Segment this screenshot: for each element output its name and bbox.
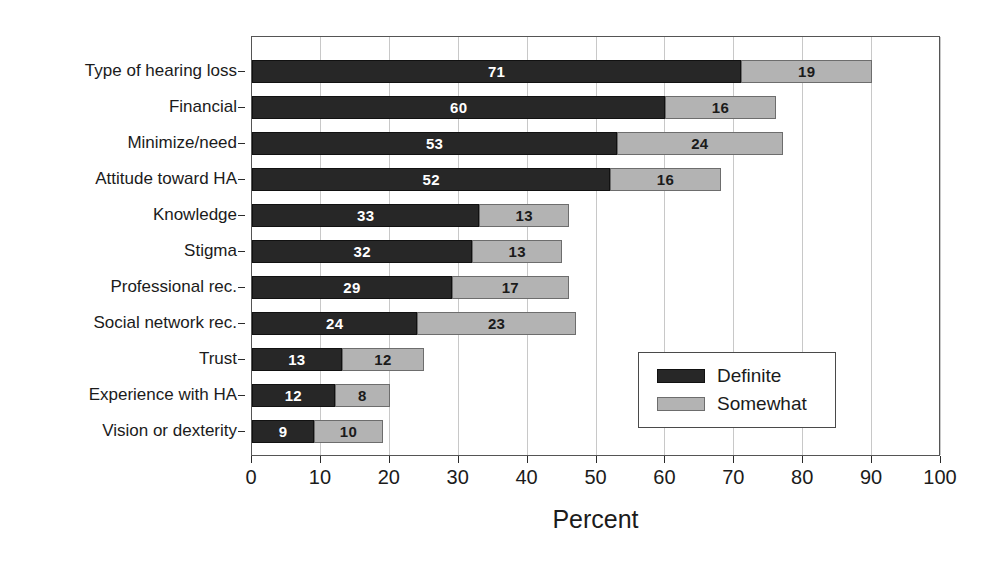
x-tick-label: 70 (722, 466, 744, 489)
bar-segment-somewhat: 19 (741, 60, 872, 83)
x-tick-mark-80 (802, 456, 803, 463)
bar-row: 3313 (252, 204, 569, 227)
bar-value-label: 24 (326, 315, 343, 332)
bar-segment-somewhat: 13 (479, 204, 569, 227)
bar-value-label: 12 (374, 351, 391, 368)
x-tick-label: 60 (653, 466, 675, 489)
category-tick (238, 323, 245, 324)
category-label: Stigma (184, 239, 237, 262)
x-tick-label: 10 (309, 466, 331, 489)
bar-row: 5216 (252, 168, 721, 191)
x-tick-mark-30 (458, 456, 459, 463)
gridline-90 (871, 37, 872, 455)
bar-value-label: 9 (279, 423, 288, 440)
x-tick-mark-70 (733, 456, 734, 463)
legend-label: Somewhat (717, 393, 807, 415)
category-tick (238, 359, 245, 360)
legend-swatch-somewhat (657, 397, 705, 411)
x-tick-mark-20 (389, 456, 390, 463)
x-tick-label: 20 (378, 466, 400, 489)
x-tick-mark-40 (527, 456, 528, 463)
bar-value-label: 32 (354, 243, 371, 260)
x-tick-label: 50 (584, 466, 606, 489)
bar-value-label: 23 (488, 315, 505, 332)
category-axis: Type of hearing lossFinancialMinimize/ne… (0, 36, 245, 456)
bar-row: 128 (252, 384, 390, 407)
bar-row: 5324 (252, 132, 783, 155)
bar-row: 7119 (252, 60, 872, 83)
category-tick (238, 395, 245, 396)
legend-item-somewhat: Somewhat (657, 390, 835, 418)
category-label: Professional rec. (110, 275, 237, 298)
category-label: Social network rec. (93, 311, 237, 334)
bar-segment-somewhat: 13 (472, 240, 562, 263)
legend-swatch-definite (657, 369, 705, 383)
bar-row: 2917 (252, 276, 569, 299)
stacked-bar-chart: Type of hearing lossFinancialMinimize/ne… (0, 0, 992, 570)
bar-segment-somewhat: 17 (452, 276, 569, 299)
bar-row: 6016 (252, 96, 776, 119)
bar-segment-somewhat: 8 (335, 384, 390, 407)
bar-value-label: 24 (691, 135, 708, 152)
bar-value-label: 16 (712, 99, 729, 116)
x-tick-mark-50 (596, 456, 597, 463)
chart-legend: DefiniteSomewhat (638, 352, 836, 428)
bar-value-label: 53 (426, 135, 443, 152)
category-tick (238, 143, 245, 144)
x-tick-label: 80 (791, 466, 813, 489)
gridline-100 (940, 37, 941, 455)
x-tick-mark-60 (664, 456, 665, 463)
bar-row: 910 (252, 420, 383, 443)
x-tick-mark-10 (320, 456, 321, 463)
bar-value-label: 13 (288, 351, 305, 368)
category-label: Attitude toward HA (95, 167, 237, 190)
legend-label: Definite (717, 365, 781, 387)
bar-value-label: 60 (450, 99, 467, 116)
x-tick-mark-100 (940, 456, 941, 463)
bar-value-label: 19 (798, 63, 815, 80)
bar-value-label: 33 (357, 207, 374, 224)
bar-value-label: 10 (340, 423, 357, 440)
bar-segment-somewhat: 24 (617, 132, 782, 155)
bar-value-label: 29 (343, 279, 360, 296)
category-label: Minimize/need (127, 131, 237, 154)
bar-segment-somewhat: 23 (417, 312, 575, 335)
bar-row: 1312 (252, 348, 424, 371)
category-label: Financial (169, 95, 237, 118)
category-label: Experience with HA (89, 383, 237, 406)
bar-segment-definite: 53 (252, 132, 617, 155)
bar-segment-definite: 13 (252, 348, 342, 371)
x-axis-title: Percent (251, 505, 940, 534)
legend-item-definite: Definite (657, 362, 835, 390)
bar-segment-somewhat: 16 (610, 168, 720, 191)
x-tick-mark-0 (251, 456, 252, 463)
bar-value-label: 13 (515, 207, 532, 224)
x-tick-mark-90 (871, 456, 872, 463)
bar-segment-somewhat: 10 (314, 420, 383, 443)
bar-segment-somewhat: 12 (342, 348, 425, 371)
category-tick (238, 179, 245, 180)
category-tick (238, 71, 245, 72)
category-label: Trust (199, 347, 237, 370)
bar-value-label: 12 (285, 387, 302, 404)
bar-segment-definite: 9 (252, 420, 314, 443)
bar-value-label: 16 (657, 171, 674, 188)
bar-row: 3213 (252, 240, 562, 263)
x-tick-label: 30 (447, 466, 469, 489)
category-tick (238, 431, 245, 432)
category-tick (238, 215, 245, 216)
x-tick-label: 90 (860, 466, 882, 489)
bar-segment-definite: 33 (252, 204, 479, 227)
bar-value-label: 8 (358, 387, 367, 404)
x-tick-label: 0 (245, 466, 256, 489)
bar-value-label: 52 (422, 171, 439, 188)
category-tick (238, 251, 245, 252)
bar-segment-definite: 71 (252, 60, 741, 83)
bar-segment-definite: 32 (252, 240, 472, 263)
category-label: Type of hearing loss (85, 59, 237, 82)
plot-area: 7119601653245216331332132917242313121289… (251, 36, 940, 456)
bar-segment-definite: 60 (252, 96, 665, 119)
x-tick-label: 100 (923, 466, 956, 489)
bar-value-label: 13 (509, 243, 526, 260)
bar-segment-somewhat: 16 (665, 96, 775, 119)
